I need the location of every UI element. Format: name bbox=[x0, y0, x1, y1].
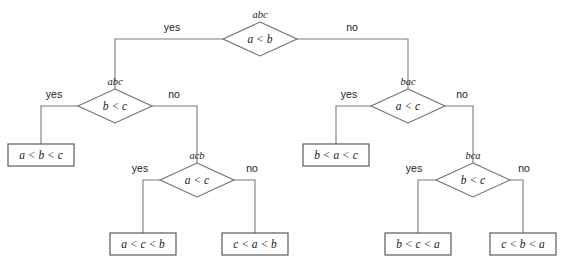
node-condition-label: a < b bbox=[247, 33, 272, 45]
leaf-node-leaf-acb: a < c < b bbox=[110, 233, 176, 255]
edge-yes: yes bbox=[406, 162, 436, 233]
leaf-label: a < b < c bbox=[19, 149, 63, 161]
decision-node-left-bc: abcb < c bbox=[78, 76, 152, 123]
edge-no: no bbox=[510, 162, 530, 233]
leaf-node-leaf-abc: a < b < c bbox=[8, 144, 74, 166]
decision-node-right-bca: bcab < c bbox=[436, 150, 510, 197]
edge-line bbox=[143, 180, 160, 233]
branch-label-no: no bbox=[456, 88, 468, 100]
edge-yes: yes bbox=[132, 162, 160, 233]
edge-yes: yes bbox=[41, 88, 78, 144]
node-condition-label: b < c bbox=[103, 100, 127, 112]
node-permutation-label: bac bbox=[400, 76, 416, 87]
edge-line bbox=[418, 180, 436, 233]
decision-tree-diagram: yesnoyesnoyesnoyesnoyesno abca < babcb <… bbox=[0, 0, 564, 270]
decision-node-left-acb: acba < c bbox=[160, 150, 234, 197]
decision-tree-canvas: yesnoyesnoyesnoyesnoyesno abca < babcb <… bbox=[0, 0, 564, 270]
edge-no: no bbox=[297, 21, 408, 89]
node-permutation-label: bca bbox=[465, 150, 480, 161]
decision-node-root: abca < b bbox=[223, 9, 297, 56]
leaf-node-leaf-cba: c < b < a bbox=[490, 233, 556, 255]
node-condition-label: a < c bbox=[185, 174, 209, 186]
node-permutation-label: abc bbox=[107, 76, 123, 87]
edge-line bbox=[297, 39, 408, 89]
branch-label-no: no bbox=[518, 162, 530, 174]
edges-layer: yesnoyesnoyesnoyesnoyesno bbox=[41, 21, 530, 233]
edge-yes: yes bbox=[115, 21, 223, 89]
edge-no: no bbox=[234, 162, 258, 233]
node-condition-label: a < c bbox=[396, 100, 420, 112]
branch-label-no: no bbox=[346, 21, 358, 33]
edge-line bbox=[115, 39, 223, 89]
node-condition-label: b < c bbox=[461, 174, 485, 186]
branch-label-yes: yes bbox=[406, 162, 422, 174]
leaf-label: b < a < c bbox=[314, 149, 358, 161]
edge-line bbox=[41, 106, 78, 144]
leaf-label: b < c < a bbox=[396, 238, 440, 250]
branch-label-yes: yes bbox=[341, 88, 357, 100]
node-permutation-label: abc bbox=[252, 9, 268, 20]
leaf-label: a < c < b bbox=[121, 238, 165, 250]
leaf-label: c < b < a bbox=[501, 238, 545, 250]
decision-node-right-ac: baca < c bbox=[371, 76, 445, 123]
branch-label-yes: yes bbox=[46, 88, 62, 100]
edge-yes: yes bbox=[336, 88, 371, 144]
leaf-node-leaf-cab: c < a < b bbox=[222, 233, 288, 255]
edge-line bbox=[234, 180, 255, 233]
branch-label-yes: yes bbox=[132, 162, 148, 174]
leaf-node-leaf-bca: b < c < a bbox=[385, 233, 451, 255]
branch-label-yes: yes bbox=[164, 21, 180, 33]
branch-label-no: no bbox=[168, 88, 180, 100]
branch-label-no: no bbox=[246, 162, 258, 174]
edge-line bbox=[336, 106, 371, 144]
leaf-label: c < a < b bbox=[233, 238, 277, 250]
edge-line bbox=[510, 180, 523, 233]
leaf-node-leaf-bac: b < a < c bbox=[303, 144, 369, 166]
node-permutation-label: acb bbox=[189, 150, 204, 161]
